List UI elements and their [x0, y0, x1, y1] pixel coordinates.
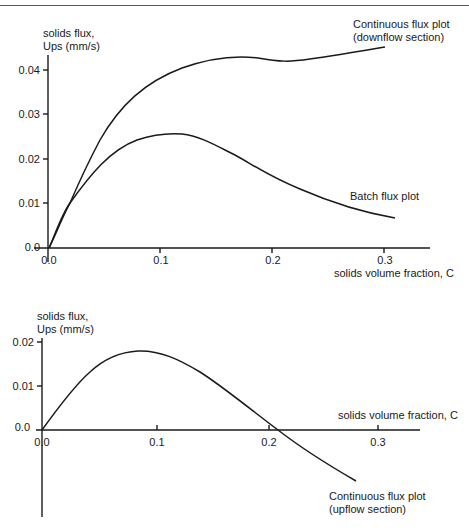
top-chart: solids flux, Ups (mm/s) 0.04 0.03 0.02 0… — [19, 18, 454, 279]
flux-charts: solids flux, Ups (mm/s) 0.04 0.03 0.02 0… — [0, 0, 469, 530]
bottom-y-tick-0.02: 0.02 — [13, 336, 34, 348]
bottom-x-ticks: 0.0 0.1 0.2 0.3 — [34, 425, 385, 448]
top-y-tick-0.02: 0.02 — [19, 153, 40, 165]
bottom-x-tick-0.2: 0.2 — [261, 436, 276, 448]
top-x-axis-label: solids volume fraction, C — [334, 267, 454, 279]
bottom-y-tick-0.0: 0.0 — [15, 421, 30, 433]
continuous-upflow-label-line2: (upflow section) — [329, 503, 406, 515]
top-x-tick-0.3: 0.3 — [377, 254, 392, 266]
top-x-tick-0.1: 0.1 — [153, 254, 168, 266]
continuous-downflow-label-line2: (downflow section) — [353, 31, 444, 43]
bottom-y-tick-0.01: 0.01 — [13, 380, 34, 392]
top-x-ticks: 0.0 0.1 0.2 0.3 — [41, 248, 392, 266]
bottom-x-tick-0.0: 0.0 — [34, 436, 49, 448]
batch-flux-label: Batch flux plot — [350, 190, 419, 202]
continuous-downflow-curve — [49, 47, 385, 248]
bottom-x-axis-label: solids volume fraction, C — [338, 409, 458, 421]
top-y-tick-0.04: 0.04 — [19, 64, 40, 76]
bottom-y-ticks: 0.02 0.01 0.0 — [13, 336, 42, 433]
top-y-ticks: 0.04 0.03 0.02 0.01 0.0 — [19, 64, 48, 253]
bottom-x-tick-0.3: 0.3 — [370, 436, 385, 448]
top-y-tick-0.03: 0.03 — [19, 108, 40, 120]
bottom-chart: solids flux, Ups (mm/s) 0.02 0.01 0.0 0.… — [13, 310, 458, 517]
batch-flux-curve — [49, 134, 395, 248]
bottom-y-axis-label-line1: solids flux, — [37, 310, 88, 322]
top-y-axis-label-line2: Ups (mm/s) — [43, 40, 100, 52]
top-y-tick-0.01: 0.01 — [19, 197, 40, 209]
continuous-upflow-label-line1: Continuous flux plot — [329, 490, 426, 502]
top-x-tick-0.2: 0.2 — [265, 254, 280, 266]
bottom-x-tick-0.1: 0.1 — [149, 436, 164, 448]
continuous-downflow-label-line1: Continuous flux plot — [353, 18, 450, 30]
top-x-tick-0.0: 0.0 — [41, 254, 56, 266]
continuous-upflow-curve — [42, 351, 356, 481]
top-y-tick-0.0: 0.0 — [25, 241, 40, 253]
top-y-axis-label-line1: solids flux, — [43, 27, 94, 39]
bottom-y-axis-label-line2: Ups (mm/s) — [37, 323, 94, 335]
